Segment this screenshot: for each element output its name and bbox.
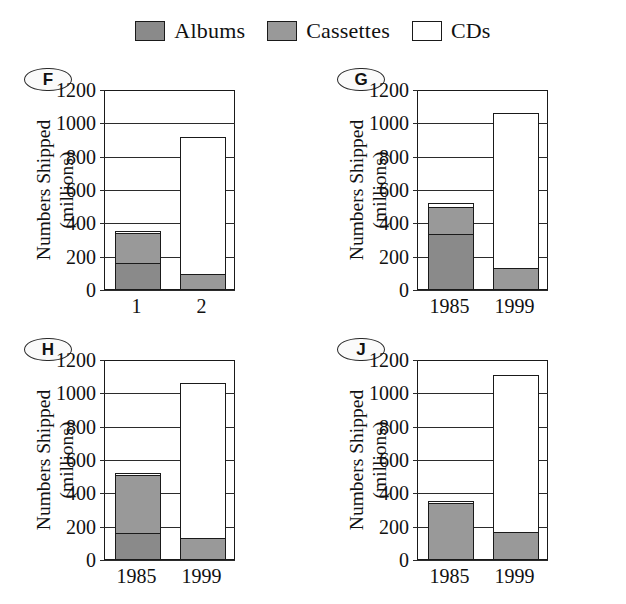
legend-entry-cds: CDs — [412, 20, 491, 42]
y-tickmark — [413, 223, 418, 224]
y-tickmark — [100, 157, 105, 158]
y-tick-g-800: 800 — [379, 147, 409, 167]
x-tick-g-1999: 1999 — [495, 296, 535, 316]
bar-segment-cassettes — [115, 233, 161, 262]
y-tickmark — [100, 290, 105, 291]
y-tickmark — [100, 223, 105, 224]
y-tick-f-200: 200 — [66, 247, 96, 267]
y-tick-g-400: 400 — [379, 213, 409, 233]
y-tick-j-1200: 1200 — [369, 350, 409, 370]
y-ticklabels-h: 120010008006004002000 — [38, 360, 100, 560]
plot-area-j — [417, 360, 548, 560]
x-tick-j-1985: 1985 — [430, 566, 470, 586]
y-tick-j-1000: 1000 — [369, 383, 409, 403]
y-tickmark — [413, 527, 418, 528]
gridline — [105, 123, 235, 124]
bar-j-1999 — [493, 375, 539, 560]
y-tickmark — [100, 460, 105, 461]
y-tick-f-800: 800 — [66, 147, 96, 167]
y-tick-h-600: 600 — [66, 450, 96, 470]
y-tickmark — [100, 393, 105, 394]
chart-panel-f: F Numbers Shipped (millions) 12001000800… — [0, 62, 313, 332]
y-tickmark — [413, 290, 418, 291]
gridline — [418, 290, 548, 291]
bar-f-2 — [180, 137, 226, 290]
x-ticklabels-f: 12 — [104, 294, 234, 326]
bar-h-1999 — [180, 383, 226, 561]
bar-segment-cds — [180, 383, 226, 539]
bar-segment-cassettes — [493, 268, 539, 290]
y-tick-g-1200: 1200 — [369, 80, 409, 100]
x-ticklabels-h: 19851999 — [104, 564, 234, 596]
y-tickmark — [413, 190, 418, 191]
gridline — [105, 290, 235, 291]
gridline — [418, 560, 548, 561]
y-tick-f-0: 0 — [86, 280, 96, 300]
y-tick-h-0: 0 — [86, 550, 96, 570]
y-tickmark — [413, 460, 418, 461]
y-tickmark — [413, 393, 418, 394]
y-tickmark — [413, 493, 418, 494]
y-tickmark — [413, 123, 418, 124]
y-tick-h-1200: 1200 — [56, 350, 96, 370]
x-tick-g-1985: 1985 — [430, 296, 470, 316]
y-tickmark — [413, 360, 418, 361]
cassettes-swatch — [267, 21, 297, 41]
y-tickmark — [413, 257, 418, 258]
y-tickmark — [100, 190, 105, 191]
y-tick-j-400: 400 — [379, 483, 409, 503]
bar-segment-cds — [493, 113, 539, 269]
x-tick-f-1: 1 — [132, 296, 142, 316]
y-tickmark — [413, 427, 418, 428]
bar-f-1 — [115, 231, 161, 290]
gridline — [105, 560, 235, 561]
y-tick-f-1200: 1200 — [56, 80, 96, 100]
y-tickmark — [100, 90, 105, 91]
y-ticklabels-g: 120010008006004002000 — [351, 90, 413, 290]
x-ticklabels-g: 19851999 — [417, 294, 547, 326]
chart-panel-h: H Numbers Shipped (millions) 12001000800… — [0, 332, 313, 602]
x-tick-f-2: 2 — [197, 296, 207, 316]
bar-segment-albums — [115, 533, 161, 561]
bar-j-1985 — [428, 501, 474, 560]
bar-segment-albums — [428, 234, 474, 290]
plot-area-f — [104, 90, 235, 290]
y-tick-h-400: 400 — [66, 483, 96, 503]
y-tick-j-800: 800 — [379, 417, 409, 437]
legend-label-cds: CDs — [451, 20, 491, 42]
y-tickmark — [100, 360, 105, 361]
bar-segment-albums — [115, 263, 161, 291]
legend-entry-albums: Albums — [135, 20, 245, 42]
y-tickmark — [413, 560, 418, 561]
y-tick-f-400: 400 — [66, 213, 96, 233]
y-tickmark — [413, 90, 418, 91]
y-tickmark — [100, 123, 105, 124]
y-tickmark — [100, 493, 105, 494]
y-tick-g-600: 600 — [379, 180, 409, 200]
bar-segment-cds — [493, 375, 539, 532]
y-tickmark — [100, 257, 105, 258]
y-tick-j-0: 0 — [399, 550, 409, 570]
chart-panel-g: G Numbers Shipped (millions) 12001000800… — [313, 62, 626, 332]
bar-segment-cassettes — [428, 503, 474, 560]
plot-wrap-j: 120010008006004002000 19851999 — [417, 360, 617, 600]
y-tickmark — [100, 527, 105, 528]
plot-area-h — [104, 360, 235, 560]
plot-area-g — [417, 90, 548, 290]
legend-label-albums: Albums — [174, 20, 245, 42]
plot-wrap-f: 120010008006004002000 12 — [104, 90, 304, 330]
bar-segment-cassettes — [428, 207, 474, 235]
bar-segment-cassettes — [180, 274, 226, 290]
chart-panel-j: J Numbers Shipped (millions) 12001000800… — [313, 332, 626, 602]
y-tick-h-800: 800 — [66, 417, 96, 437]
y-tick-g-1000: 1000 — [369, 113, 409, 133]
y-tick-f-1000: 1000 — [56, 113, 96, 133]
plot-wrap-h: 120010008006004002000 19851999 — [104, 360, 304, 600]
x-tick-h-1985: 1985 — [117, 566, 157, 586]
bar-segment-cds — [180, 137, 226, 275]
bar-g-1985 — [428, 203, 474, 290]
bar-g-1999 — [493, 113, 539, 291]
chart-legend: Albums Cassettes CDs — [0, 20, 626, 42]
y-ticklabels-f: 120010008006004002000 — [38, 90, 100, 290]
y-tickmark — [100, 560, 105, 561]
